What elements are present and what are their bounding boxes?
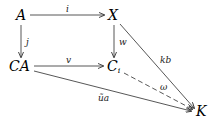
label-j: j — [26, 38, 29, 47]
arrow-ca-k — [34, 71, 191, 111]
label-ua: ũa — [98, 94, 109, 103]
label-w: w — [119, 38, 127, 47]
node-k: K — [196, 104, 206, 118]
label-i: i — [66, 5, 69, 14]
node-ca: CA — [9, 59, 30, 73]
arrow-ci-k — [124, 73, 192, 109]
node-ci: Ci — [107, 59, 120, 75]
node-a: A — [16, 8, 26, 22]
node-ci-sub: i — [118, 66, 121, 75]
label-v: v — [66, 56, 71, 65]
node-ci-base: C — [107, 58, 118, 74]
node-x: X — [108, 8, 118, 22]
label-kb: kb — [160, 56, 171, 65]
label-omega: ω — [160, 83, 167, 92]
